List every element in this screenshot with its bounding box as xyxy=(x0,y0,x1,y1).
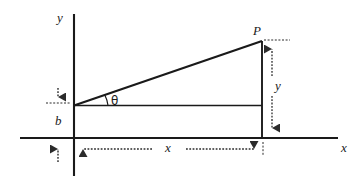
figure-canvas: y x P θ b y x xyxy=(0,0,360,183)
hypotenuse-line xyxy=(74,41,262,106)
theta-arc xyxy=(105,94,109,105)
point-p-label: P xyxy=(253,24,261,37)
y-axis-label: y xyxy=(57,11,63,24)
b-dimension-label: b xyxy=(55,114,62,127)
diagram-svg xyxy=(0,0,360,183)
y-dimension-label: y xyxy=(275,79,281,92)
x-dimension-label: x xyxy=(165,141,171,154)
x-axis-label: x xyxy=(341,141,347,154)
theta-label: θ xyxy=(111,95,118,107)
